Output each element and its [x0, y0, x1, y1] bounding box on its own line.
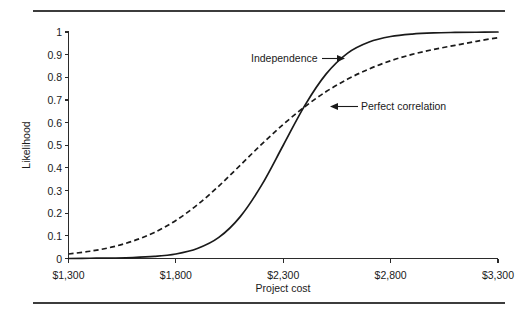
x-axis-title: Project cost	[256, 283, 311, 294]
x-axis-tick-label: $2,800	[375, 270, 407, 281]
y-axis-tick-label: 0.9	[40, 49, 62, 60]
y-axis-tick-label: 0.3	[40, 185, 62, 196]
series-line-independence	[69, 32, 499, 259]
y-axis-tick-label: 0.4	[40, 163, 62, 174]
x-axis-tick-label: $1,800	[160, 270, 192, 281]
annotation-label-perfect-correlation: Perfect correlation	[361, 101, 446, 112]
chart-plot-area	[0, 0, 525, 313]
annotation-arrow-perfect-correlation	[330, 103, 358, 110]
x-axis-ticks	[69, 259, 499, 263]
x-axis-tick-label: $1,300	[52, 270, 84, 281]
annotation-arrow-independence	[322, 55, 345, 62]
y-axis-tick-label: 0.6	[40, 117, 62, 128]
y-axis-tick-label: 0	[40, 253, 62, 264]
y-axis-tick-label: 0.2	[40, 208, 62, 219]
y-axis-ticks	[65, 32, 69, 259]
x-axis-tick-label: $3,300	[482, 270, 514, 281]
y-axis-tick-label: 1	[40, 27, 62, 38]
figure-container: 00.10.20.30.40.50.60.70.80.91 $1,300$1,8…	[0, 0, 525, 313]
annotation-label-independence: Independence	[251, 53, 318, 64]
y-axis-tick-label: 0.8	[40, 72, 62, 83]
y-axis-tick-label: 0.5	[40, 140, 62, 151]
y-axis-tick-label: 0.1	[40, 231, 62, 242]
x-axis-tick-label: $2,300	[267, 270, 299, 281]
y-axis-tick-label: 0.7	[40, 95, 62, 106]
y-axis-title: Likelihood	[21, 121, 32, 168]
